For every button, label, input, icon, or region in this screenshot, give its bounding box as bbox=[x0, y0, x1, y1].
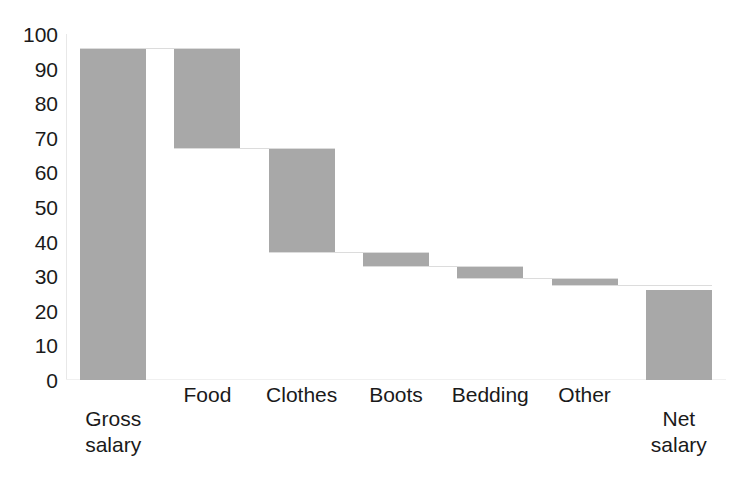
x-axis-line bbox=[66, 379, 726, 380]
y-tick-label: 50 bbox=[0, 197, 58, 218]
x-tick-label: Bedding bbox=[443, 382, 537, 408]
y-tick-label: 100 bbox=[0, 24, 58, 45]
y-tick-label: 90 bbox=[0, 58, 58, 79]
x-tick-label: Clothes bbox=[255, 382, 349, 408]
bar-decrease-4 bbox=[457, 266, 523, 278]
bar-decrease-5 bbox=[552, 278, 618, 285]
y-tick-label: 70 bbox=[0, 127, 58, 148]
x-tick-label: Boots bbox=[349, 382, 443, 408]
y-axis-line bbox=[66, 34, 67, 380]
x-axis: Gross salaryFoodClothesBootsBeddingOther… bbox=[66, 382, 726, 482]
bar-decrease-3 bbox=[363, 252, 429, 266]
y-tick-label: 0 bbox=[0, 370, 58, 391]
y-tick-label: 80 bbox=[0, 93, 58, 114]
bar-total-6 bbox=[646, 290, 712, 380]
plot-area bbox=[66, 34, 726, 380]
x-tick-label: Other bbox=[537, 382, 631, 408]
connector-line-final bbox=[552, 285, 712, 286]
connector-line bbox=[174, 148, 334, 149]
connector-line bbox=[80, 48, 240, 49]
bar-decrease-2 bbox=[269, 148, 335, 252]
y-tick-label: 10 bbox=[0, 335, 58, 356]
x-tick-label: Gross salary bbox=[66, 406, 160, 459]
bar-total-0 bbox=[80, 48, 146, 380]
x-tick-label: Food bbox=[160, 382, 254, 408]
connector-line bbox=[457, 278, 617, 279]
y-tick-label: 30 bbox=[0, 266, 58, 287]
waterfall-chart: 0102030405060708090100 Gross salaryFoodC… bbox=[0, 0, 741, 491]
connector-line bbox=[363, 266, 523, 267]
y-tick-label: 60 bbox=[0, 162, 58, 183]
y-axis: 0102030405060708090100 bbox=[0, 34, 58, 380]
x-tick-label: Net salary bbox=[632, 406, 726, 459]
y-tick-label: 40 bbox=[0, 231, 58, 252]
connector-line bbox=[269, 252, 429, 253]
bar-decrease-1 bbox=[174, 48, 240, 148]
y-tick-label: 20 bbox=[0, 300, 58, 321]
